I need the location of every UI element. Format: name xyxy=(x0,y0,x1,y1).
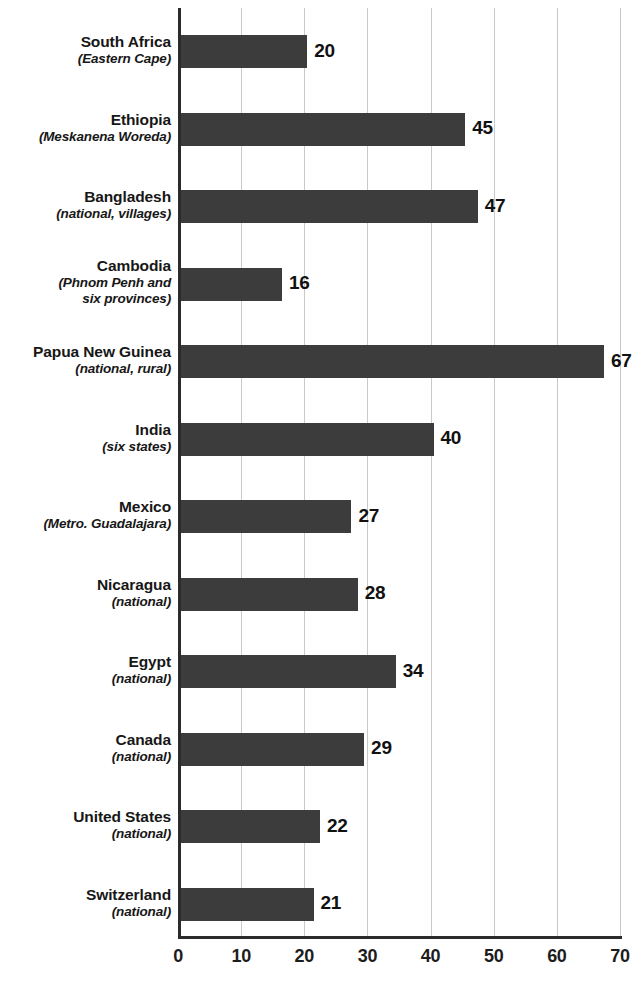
category-label: Cambodia(Phnom Penh andsix provinces) xyxy=(6,257,171,307)
bar xyxy=(181,655,396,688)
bar-value-label: 45 xyxy=(472,117,493,139)
category-label: Papua New Guinea(national, rural) xyxy=(6,343,171,377)
bar-row: India(six states)40 xyxy=(0,396,642,474)
x-tick-label-10: 10 xyxy=(231,946,250,967)
bar-value-label: 20 xyxy=(314,40,335,62)
category-name: Cambodia xyxy=(6,257,171,275)
bar xyxy=(181,268,282,301)
category-sublabel: (Metro. Guadalajara) xyxy=(6,516,171,532)
category-label: Egypt(national) xyxy=(6,653,171,687)
bar xyxy=(181,810,320,843)
bar xyxy=(181,888,314,921)
bar xyxy=(181,733,364,766)
bar-chart: South Africa(Eastern Cape)20Ethiopia(Mes… xyxy=(0,0,642,985)
category-sublabel: (Meskanena Woreda) xyxy=(6,129,171,145)
bar-value-label: 27 xyxy=(358,505,379,527)
category-sublabel: (national) xyxy=(6,671,171,687)
bar-row: Switzerland(national)21 xyxy=(0,861,642,939)
category-sublabel: (Eastern Cape) xyxy=(6,51,171,67)
bar-value-label: 28 xyxy=(365,582,386,604)
bar xyxy=(181,578,358,611)
category-name: South Africa xyxy=(6,33,171,51)
bar-row: Ethiopia(Meskanena Woreda)45 xyxy=(0,86,642,164)
category-sublabel: (national) xyxy=(6,594,171,610)
category-sublabel: (six states) xyxy=(6,439,171,455)
category-label: India(six states) xyxy=(6,421,171,455)
bar xyxy=(181,113,465,146)
bar-value-label: 34 xyxy=(403,660,424,682)
bar xyxy=(181,190,478,223)
bar-value-label: 29 xyxy=(371,737,392,759)
category-name: Mexico xyxy=(6,498,171,516)
category-label: Switzerland(national) xyxy=(6,886,171,920)
category-name: Nicaragua xyxy=(6,576,171,594)
category-name: Canada xyxy=(6,731,171,749)
x-tick-label-0: 0 xyxy=(173,946,183,967)
x-tick-label-20: 20 xyxy=(295,946,314,967)
category-sublabel: (Phnom Penh and xyxy=(6,275,171,291)
category-label: Bangladesh(national, villages) xyxy=(6,188,171,222)
bar xyxy=(181,35,307,68)
category-sublabel: six provinces) xyxy=(6,291,171,307)
category-label: Ethiopia(Meskanena Woreda) xyxy=(6,111,171,145)
category-label: Mexico(Metro. Guadalajara) xyxy=(6,498,171,532)
category-sublabel: (national) xyxy=(6,826,171,842)
bar-value-label: 21 xyxy=(321,892,342,914)
category-name: Ethiopia xyxy=(6,111,171,129)
category-label: United States(national) xyxy=(6,808,171,842)
category-name: India xyxy=(6,421,171,439)
bar xyxy=(181,345,604,378)
x-tick-label-30: 30 xyxy=(358,946,377,967)
category-name: Papua New Guinea xyxy=(6,343,171,361)
bar xyxy=(181,500,351,533)
bar-row: Canada(national)29 xyxy=(0,706,642,784)
bar-row: Egypt(national)34 xyxy=(0,628,642,706)
bar-row: Mexico(Metro. Guadalajara)27 xyxy=(0,473,642,551)
bar xyxy=(181,423,434,456)
x-tick-label-40: 40 xyxy=(421,946,440,967)
category-sublabel: (national, rural) xyxy=(6,361,171,377)
x-tick-label-60: 60 xyxy=(547,946,566,967)
x-tick-label-70: 70 xyxy=(610,946,629,967)
x-tick-label-50: 50 xyxy=(484,946,503,967)
bar-row: South Africa(Eastern Cape)20 xyxy=(0,8,642,86)
category-sublabel: (national) xyxy=(6,749,171,765)
bar-row: Cambodia(Phnom Penh andsix provinces)16 xyxy=(0,241,642,319)
bar-value-label: 47 xyxy=(485,195,506,217)
category-label: Nicaragua(national) xyxy=(6,576,171,610)
bar-row: United States(national)22 xyxy=(0,783,642,861)
bar-value-label: 16 xyxy=(289,272,310,294)
category-name: United States xyxy=(6,808,171,826)
bar-value-label: 40 xyxy=(441,427,462,449)
category-name: Egypt xyxy=(6,653,171,671)
bar-row: Papua New Guinea(national, rural)67 xyxy=(0,318,642,396)
category-sublabel: (national) xyxy=(6,904,171,920)
bar-row: Nicaragua(national)28 xyxy=(0,551,642,629)
category-label: Canada(national) xyxy=(6,731,171,765)
category-label: South Africa(Eastern Cape) xyxy=(6,33,171,67)
category-name: Switzerland xyxy=(6,886,171,904)
category-name: Bangladesh xyxy=(6,188,171,206)
category-sublabel: (national, villages) xyxy=(6,206,171,222)
bar-row: Bangladesh(national, villages)47 xyxy=(0,163,642,241)
bar-value-label: 22 xyxy=(327,815,348,837)
bar-value-label: 67 xyxy=(611,350,632,372)
